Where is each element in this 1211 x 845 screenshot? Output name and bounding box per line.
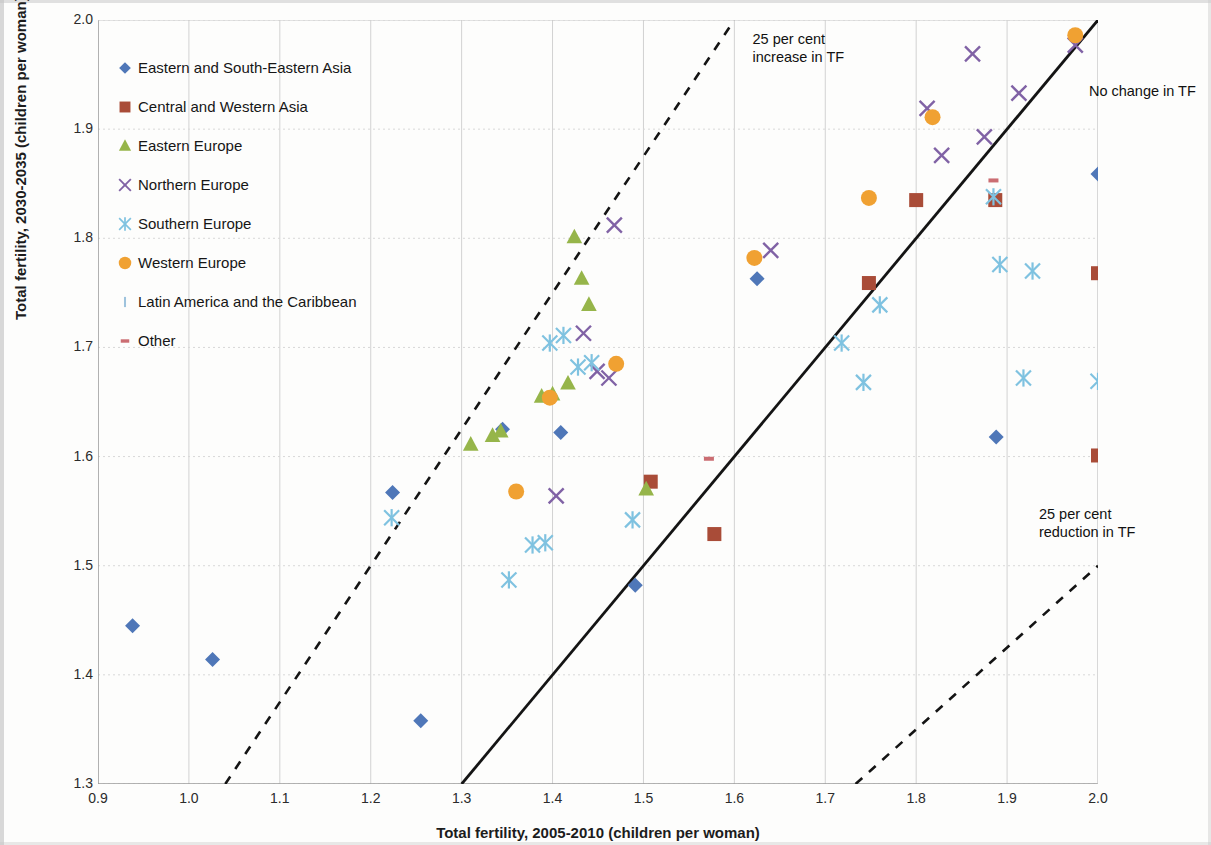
legend-label: Northern Europe <box>138 176 249 193</box>
legend-item-central-and-western-asia[interactable]: Central and Western Asia <box>112 87 356 126</box>
y-axis-label: Total fertility, 2030-2035 (children per… <box>12 0 29 320</box>
legend-marker-icon <box>112 96 138 118</box>
annotation-no-change: No change in TF <box>1089 82 1196 100</box>
data-point <box>1091 166 1099 181</box>
legend-item-eastern-and-south-eastern-asia[interactable]: Eastern and South-Eastern Asia <box>112 48 356 87</box>
data-point <box>763 243 778 258</box>
chart-page: Total fertility, 2030-2035 (children per… <box>0 0 1211 845</box>
annotation-increase: 25 per cent increase in TF <box>753 30 845 66</box>
data-point <box>1091 448 1098 462</box>
data-point <box>608 356 624 372</box>
data-point <box>704 457 714 461</box>
data-point <box>538 534 553 551</box>
data-point <box>576 326 591 341</box>
data-point <box>125 618 140 633</box>
legend-marker-icon <box>112 213 138 235</box>
legend-label: Western Europe <box>138 254 246 271</box>
data-point <box>625 511 640 528</box>
legend-label: Central and Western Asia <box>138 98 308 115</box>
data-point <box>508 483 524 499</box>
data-point <box>872 296 887 313</box>
legend-label: Other <box>138 332 176 349</box>
y-tick-label: 1.3 <box>49 775 93 791</box>
legend-marker-icon <box>112 252 138 274</box>
y-tick-label: 1.8 <box>49 229 93 245</box>
legend-label: Eastern and South-Eastern Asia <box>138 59 351 76</box>
data-point <box>746 250 762 266</box>
legend-item-other[interactable]: Other <box>112 321 356 360</box>
data-point <box>988 178 998 182</box>
refline-no-change <box>462 20 1098 784</box>
data-point <box>584 354 599 371</box>
data-point <box>834 334 849 351</box>
annotation-increase-line1: 25 per cent <box>753 30 845 48</box>
legend-item-southern-europe[interactable]: Southern Europe <box>112 204 356 243</box>
data-point <box>549 488 564 503</box>
x-tick-label: 1.8 <box>894 790 938 806</box>
data-point <box>574 270 590 285</box>
data-point <box>1025 262 1040 279</box>
data-point <box>925 109 941 125</box>
legend-marker-icon <box>112 135 138 157</box>
data-point <box>909 193 923 207</box>
annotation-reduction: 25 per cent reduction in TF <box>1039 505 1135 541</box>
x-tick-label: 1.3 <box>440 790 484 806</box>
data-point <box>542 390 558 406</box>
x-tick-label: 1.6 <box>712 790 756 806</box>
data-point <box>463 436 479 451</box>
annotation-reduction-line2: reduction in TF <box>1039 523 1135 541</box>
data-point <box>989 429 1004 444</box>
legend-marker-icon <box>112 330 138 352</box>
data-point <box>934 148 949 163</box>
legend-label: Latin America and the Caribbean <box>138 293 356 310</box>
chart-legend: Eastern and South-Eastern AsiaCentral an… <box>112 48 356 360</box>
data-point <box>205 652 220 667</box>
x-tick-label: 1.9 <box>985 790 1029 806</box>
data-point <box>862 276 876 290</box>
scan-edge-top <box>0 0 1211 3</box>
legend-item-eastern-europe[interactable]: Eastern Europe <box>112 126 356 165</box>
legend-marker-icon <box>112 57 138 79</box>
legend-item-latin-america-and-the-caribbean[interactable]: Latin America and the Caribbean <box>112 282 356 321</box>
data-point <box>750 271 765 286</box>
data-point <box>977 129 992 144</box>
data-point <box>556 327 571 344</box>
data-point <box>861 190 877 206</box>
x-tick-label: 1.4 <box>531 790 575 806</box>
annotation-no-change-line1: No change in TF <box>1089 82 1196 100</box>
y-tick-label: 1.7 <box>49 338 93 354</box>
data-point <box>965 46 980 61</box>
data-point <box>567 229 583 244</box>
legend-marker-icon <box>112 291 138 313</box>
x-axis-label: Total fertility, 2005-2010 (children per… <box>98 824 1098 841</box>
data-point <box>1091 266 1098 280</box>
annotation-reduction-line1: 25 per cent <box>1039 505 1135 523</box>
data-point <box>542 334 557 351</box>
data-point <box>501 571 516 588</box>
legend-item-northern-europe[interactable]: Northern Europe <box>112 165 356 204</box>
data-point <box>1016 369 1031 386</box>
data-point <box>992 256 1007 273</box>
data-point <box>1011 86 1026 101</box>
legend-marker-icon <box>112 174 138 196</box>
y-tick-label: 1.4 <box>49 666 93 682</box>
y-tick-label: 1.9 <box>49 120 93 136</box>
x-tick-label: 1.2 <box>349 790 393 806</box>
y-tick-label: 2.0 <box>49 11 93 27</box>
x-tick-label: 2.0 <box>1076 790 1120 806</box>
x-tick-label: 1.5 <box>621 790 665 806</box>
x-tick-label: 0.9 <box>76 790 120 806</box>
data-point <box>385 485 400 500</box>
refline-reduction-25 <box>856 566 1098 784</box>
data-point <box>1067 27 1083 43</box>
data-point <box>571 358 586 375</box>
annotation-increase-line2: increase in TF <box>753 48 845 66</box>
data-point <box>607 218 622 233</box>
data-point <box>856 374 871 391</box>
scatter-plot: Total fertility, 2030-2035 (children per… <box>98 20 1098 784</box>
data-point <box>581 296 597 311</box>
legend-item-western-europe[interactable]: Western Europe <box>112 243 356 282</box>
x-tick-label: 1.0 <box>167 790 211 806</box>
data-point <box>1091 373 1099 390</box>
x-tick-label: 1.1 <box>258 790 302 806</box>
